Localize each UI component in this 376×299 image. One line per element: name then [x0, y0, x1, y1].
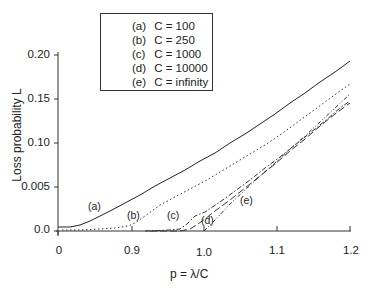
x-axis-label: p = λ/C	[170, 267, 208, 281]
legend: (a) C = 100 (b) C = 250 (c) C = 1000 (d)…	[100, 13, 213, 91]
curve-label-c: (c)	[167, 209, 179, 221]
y-tick-label: 0.10	[10, 136, 50, 148]
x-tick-label: 1.0	[189, 246, 219, 258]
y-tick-label: 0.0	[10, 223, 50, 235]
x-tick-label: 1.1	[262, 244, 292, 256]
curve-label-e: (e)	[240, 194, 253, 206]
y-tick-label: 0.20	[10, 48, 50, 60]
legend-item-d: (d) C = 10000	[132, 61, 212, 75]
x-tick-label: 0.9	[117, 244, 147, 256]
curve-label-a: (a)	[88, 200, 101, 212]
legend-item-c: (c) C = 1000	[132, 47, 212, 61]
y-tick-label: 0.15	[10, 92, 50, 104]
curve-label-b: (b)	[127, 209, 140, 221]
legend-item-e: (e) C = infinity	[132, 75, 212, 89]
legend-item-b: (b) C = 250	[132, 33, 212, 47]
legend-item-a: (a) C = 100	[132, 19, 212, 33]
x-tick-label: 1.2	[336, 244, 366, 256]
series-e-line	[204, 94, 350, 231]
x-tick-label: 0	[44, 244, 74, 256]
curve-label-d: (d)	[201, 214, 214, 226]
series-b-line	[62, 84, 350, 230]
y-tick-label: 0.005	[10, 180, 50, 192]
